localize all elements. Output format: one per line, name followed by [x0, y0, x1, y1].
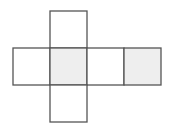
face-left [13, 48, 50, 85]
face-bottom [50, 85, 87, 122]
cube-net-diagram [0, 0, 172, 130]
face-far-right-shaded [124, 48, 161, 85]
face-center-shaded [50, 48, 87, 85]
face-right [87, 48, 124, 85]
face-top [50, 11, 87, 48]
